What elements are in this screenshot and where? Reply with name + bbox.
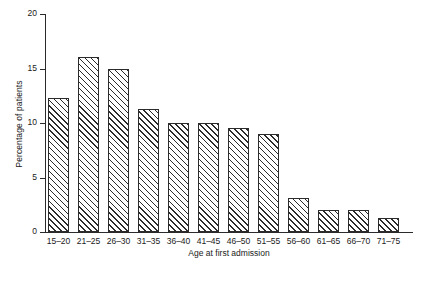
x-tick-label-56-60: 56–60 (284, 236, 314, 247)
x-tick-label-26-30: 26–30 (104, 236, 134, 247)
y-axis-line (45, 14, 46, 233)
x-tick-label-41-45: 41–45 (194, 236, 224, 247)
y-tick-label-0: 0 (32, 226, 37, 237)
x-axis-label: Age at first admission (45, 248, 413, 259)
y-tick-label-20: 20 (28, 8, 37, 19)
x-tick-label-15-20: 15–20 (44, 236, 74, 247)
y-axis-label: Percentage of patients (12, 8, 26, 240)
bar-51-55 (258, 134, 279, 232)
bar-56-60 (288, 198, 309, 232)
x-tick-label-36-40: 36–40 (164, 236, 194, 247)
y-tick-label-10: 10 (28, 117, 37, 128)
bar-31-35 (138, 109, 159, 232)
bar-71-75 (378, 218, 399, 232)
y-tick-label-5: 5 (32, 172, 37, 183)
x-tick-label-71-75: 71–75 (374, 236, 404, 247)
y-tick-10: 10 (40, 123, 45, 124)
x-tick-label-61-65: 61–65 (314, 236, 344, 247)
x-tick-label-21-25: 21–25 (74, 236, 104, 247)
bar-26-30 (108, 69, 129, 233)
bar-46-50 (228, 128, 249, 232)
bar-66-70 (348, 210, 369, 232)
x-axis-line (45, 232, 413, 233)
bar-chart-figure: Percentage of patients 05101520 15–2021–… (0, 0, 427, 285)
y-tick-5: 5 (40, 178, 45, 179)
bar-36-40 (168, 123, 189, 232)
y-tick-20: 20 (40, 14, 45, 15)
x-tick-label-31-35: 31–35 (134, 236, 164, 247)
bar-21-25 (78, 57, 99, 232)
bar-41-45 (198, 123, 219, 232)
y-tick-15: 15 (40, 69, 45, 70)
y-tick-label-15: 15 (28, 63, 37, 74)
y-tick-0: 0 (40, 232, 45, 233)
x-tick-label-66-70: 66–70 (344, 236, 374, 247)
x-tick-label-46-50: 46–50 (224, 236, 254, 247)
plot-area: 05101520 15–2021–2526–3031–3536–4041–454… (45, 14, 413, 232)
bar-61-65 (318, 210, 339, 232)
x-tick-label-51-55: 51–55 (254, 236, 284, 247)
bar-15-20 (48, 98, 69, 232)
